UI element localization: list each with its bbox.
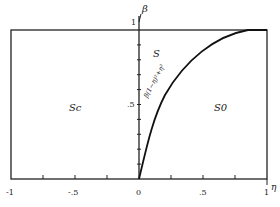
x-tick-label-one: 1 [264,189,269,197]
plot-canvas [0,0,280,207]
y-tick-label-1: 1 [131,19,136,27]
x-tick-label-neg-half: -.5 [68,189,78,197]
x-tick-label-neg1: -1 [6,189,14,197]
region-label-sc: Sc [69,102,81,113]
x-axis-label: η [271,183,276,192]
y-tick-label-half: .5 [127,101,135,109]
region-label-s0: S0 [214,102,227,113]
region-label-s: S [153,48,160,59]
x-tick-label-zero: 0 [136,189,141,197]
y-axis-label: β [142,4,148,14]
x-tick-label-half: .5 [199,189,207,197]
